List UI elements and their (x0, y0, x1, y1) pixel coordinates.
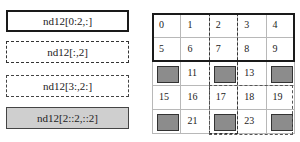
grid-cell: 4 (266, 13, 295, 38)
slice-label-text: nd12[2::2,::2] (37, 112, 98, 124)
slice-label-step-2: nd12[2::2,::2] (6, 107, 129, 129)
selected-cell-marker (214, 114, 236, 131)
slice-label-sub-3-2: nd12[3:,2:] (6, 75, 129, 97)
grid-cell: 9 (266, 37, 295, 62)
slice-label-text: nd12[:,2] (47, 46, 88, 58)
grid-cell: 23 (237, 109, 266, 134)
grid-cell: 2 (209, 13, 238, 38)
grid-cell: 16 (180, 85, 209, 110)
grid-cell: 6 (180, 37, 209, 62)
grid-cell: 21 (180, 109, 209, 134)
grid-cell: 0 (152, 13, 181, 38)
grid-cell: 17 (209, 85, 238, 110)
slice-label-text: nd12[0:2,:] (43, 15, 92, 27)
grid-cell: 11 (180, 61, 209, 86)
grid-cell (209, 109, 238, 134)
selected-cell-marker (157, 114, 179, 131)
grid-cell: 15 (152, 85, 181, 110)
slice-label-rows-0-2: nd12[0:2,:] (6, 10, 129, 32)
slice-label-col-2: nd12[:,2] (6, 41, 129, 63)
grid-cell: 5 (152, 37, 181, 62)
selected-cell-marker (157, 66, 179, 83)
selected-cell-marker (271, 114, 293, 131)
grid-cell (152, 109, 181, 134)
grid-cell: 3 (237, 13, 266, 38)
grid-cell: 18 (237, 85, 266, 110)
grid-cell: 1 (180, 13, 209, 38)
slice-label-text: nd12[3:,2:] (43, 80, 92, 92)
grid-cell: 13 (237, 61, 266, 86)
selected-cell-marker (214, 66, 236, 83)
grid-cell (266, 61, 295, 86)
grid-cell: 8 (237, 37, 266, 62)
grid-cell (266, 109, 295, 134)
grid-cell (152, 61, 181, 86)
grid-cell: 19 (266, 85, 295, 110)
selected-cell-marker (271, 66, 293, 83)
array-grid: 0123456789111315161718192123 (152, 13, 294, 133)
grid-cell (209, 61, 238, 86)
grid-cell: 7 (209, 37, 238, 62)
